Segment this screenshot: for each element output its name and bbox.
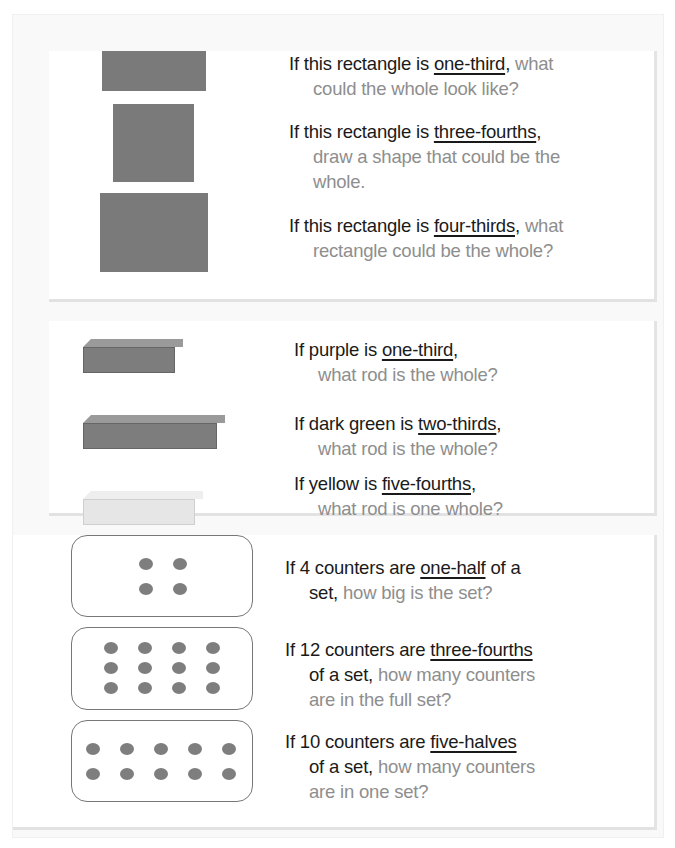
counter-dot xyxy=(139,583,153,595)
fraction-term: two-thirds xyxy=(418,413,496,434)
question-counters-3: If 10 counters are five-halves of a set,… xyxy=(285,729,535,804)
fraction-term: four-thirds xyxy=(434,215,515,236)
question-rect-3: If this rectangle is four-thirds, what r… xyxy=(289,213,563,263)
rectangle-four-thirds xyxy=(100,193,208,272)
question-rod-3: If yellow is five-fourths, what rod is o… xyxy=(294,471,503,521)
fraction-term: one-third xyxy=(382,339,453,360)
counter-dot xyxy=(173,558,187,570)
rectangle-three-fourths xyxy=(113,104,194,182)
purple-rod xyxy=(83,339,183,373)
question-counters-1: If 4 counters are one-half of a set, how… xyxy=(285,555,521,605)
dark-green-rod xyxy=(83,415,225,449)
question-rod-2: If dark green is two-thirds, what rod is… xyxy=(294,411,501,461)
question-counters-2: If 12 counters are three-fourths of a se… xyxy=(285,637,535,712)
yellow-rod xyxy=(83,491,203,525)
fraction-term: five-halves xyxy=(430,731,516,752)
counter-set-10 xyxy=(71,720,253,802)
page: If this rectangle is one-third, what cou… xyxy=(12,14,664,838)
counter-dot xyxy=(139,558,153,570)
fraction-term: one-half xyxy=(420,557,485,578)
fraction-term: three-fourths xyxy=(430,639,532,660)
counters-panel: If 4 counters are one-half of a set, how… xyxy=(13,535,657,830)
counter-set-12 xyxy=(71,627,253,710)
question-rect-2: If this rectangle is three-fourths, draw… xyxy=(289,119,560,194)
counter-dot xyxy=(173,583,187,595)
counter-set-4 xyxy=(71,535,253,617)
fraction-term: three-fourths xyxy=(434,121,536,142)
fraction-term: five-fourths xyxy=(382,473,471,494)
rods-panel: If purple is one-third, what rod is the … xyxy=(49,321,657,516)
rectangle-one-third xyxy=(102,51,206,91)
question-rod-1: If purple is one-third, what rod is the … xyxy=(294,337,498,387)
rectangles-panel: If this rectangle is one-third, what cou… xyxy=(49,51,657,302)
question-rect-1: If this rectangle is one-third, what cou… xyxy=(289,51,553,101)
fraction-term: one-third xyxy=(434,53,505,74)
